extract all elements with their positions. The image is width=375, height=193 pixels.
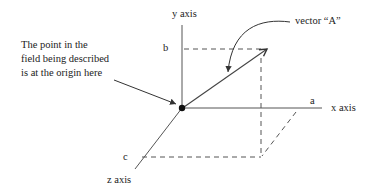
z-axis-line bbox=[135, 108, 182, 169]
c-label: c bbox=[123, 152, 128, 163]
origin-pointer-arrow bbox=[114, 80, 176, 104]
diagram-graphics bbox=[0, 0, 375, 193]
origin-annotation: The point in the field being described i… bbox=[21, 38, 109, 80]
annotation-line-1: The point in the bbox=[21, 38, 109, 52]
vector-diagram: y axis b vector “A” a x axis c z axis Th… bbox=[0, 0, 375, 193]
a-label: a bbox=[310, 96, 315, 107]
annotation-line-2: field being described bbox=[21, 52, 109, 66]
b-label: b bbox=[163, 43, 168, 54]
vector-a-label: vector “A” bbox=[295, 16, 341, 27]
annotation-line-3: is at the origin here bbox=[21, 66, 109, 80]
vector-label-pointer bbox=[228, 21, 290, 72]
x-axis-label: x axis bbox=[331, 103, 356, 114]
dashed-a-diagonal-line bbox=[262, 112, 296, 156]
y-axis-label: y axis bbox=[172, 9, 197, 20]
z-axis-label: z axis bbox=[107, 175, 131, 186]
vector-a-arrow bbox=[184, 49, 267, 107]
origin-dot bbox=[179, 105, 185, 111]
